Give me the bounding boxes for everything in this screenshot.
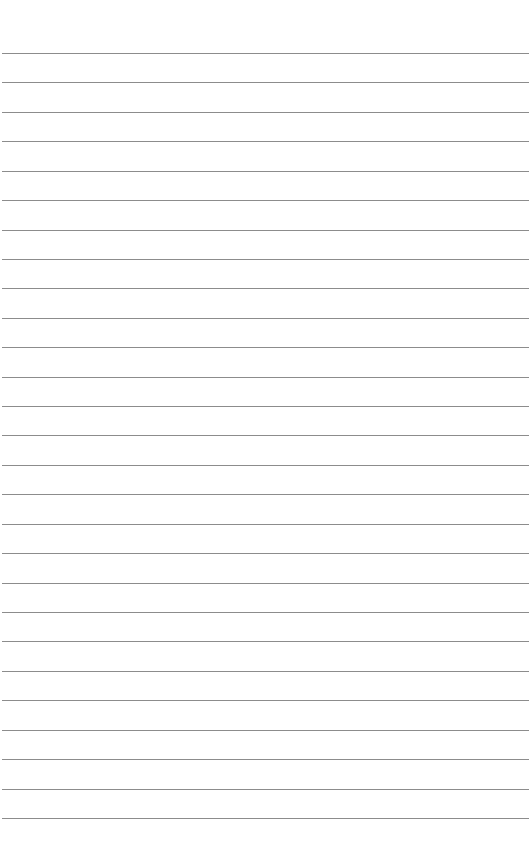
ruled-line — [2, 524, 529, 525]
ruled-line — [2, 288, 529, 289]
ruled-line — [2, 583, 529, 584]
ruled-line — [2, 789, 529, 790]
ruled-line — [2, 730, 529, 731]
ruled-line — [2, 82, 529, 83]
ruled-line — [2, 818, 529, 819]
ruled-line — [2, 435, 529, 436]
ruled-line — [2, 230, 529, 231]
ruled-line — [2, 700, 529, 701]
ruled-line — [2, 53, 529, 54]
ruled-line — [2, 347, 529, 348]
ruled-line — [2, 171, 529, 172]
ruled-line — [2, 641, 529, 642]
ruled-line — [2, 318, 529, 319]
ruled-line — [2, 671, 529, 672]
ruled-line — [2, 759, 529, 760]
ruled-line — [2, 259, 529, 260]
ruled-line — [2, 141, 529, 142]
lined-paper-sheet — [0, 0, 530, 866]
ruled-line — [2, 494, 529, 495]
ruled-line — [2, 200, 529, 201]
ruled-line — [2, 465, 529, 466]
ruled-line — [2, 112, 529, 113]
ruled-line — [2, 612, 529, 613]
ruled-line — [2, 377, 529, 378]
ruled-line — [2, 406, 529, 407]
ruled-line — [2, 553, 529, 554]
